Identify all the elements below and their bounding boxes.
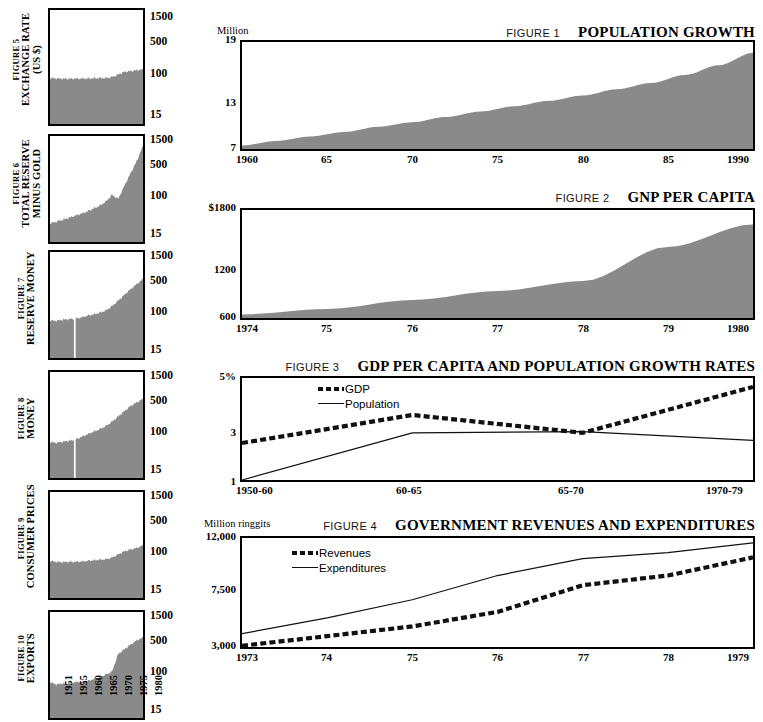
- figure-4-ytick-12000: 12,000: [190, 530, 236, 542]
- figure-4-xtick-76: 76: [492, 651, 503, 663]
- figure-3-title: GDP PER CAPITA AND POPULATION GROWTH RAT…: [357, 358, 755, 374]
- figure-4-number: FIGURE 4: [323, 520, 377, 532]
- figure-2-svg: [242, 210, 753, 318]
- small-chart-svg-10: [50, 612, 143, 718]
- figure-4-legend-item-revenues: Revenues: [292, 545, 386, 560]
- small-chart-plot-10: [48, 610, 145, 720]
- small-ytick-15: 15: [150, 109, 162, 120]
- figure-4-xtick-77: 77: [578, 651, 589, 663]
- small-ytick-500: 500: [150, 275, 167, 286]
- figure-2-ytick-1200: 1200: [195, 263, 236, 275]
- figure-4-xtick-74: 74: [321, 651, 332, 663]
- small-ytick-100: 100: [150, 190, 167, 201]
- small-ytick-500: 500: [150, 635, 167, 646]
- small-ytick-1500: 1500: [150, 370, 173, 381]
- small-chart-yticks-6: 1500 500 100 15: [150, 134, 192, 244]
- small-ytick-100: 100: [150, 426, 167, 437]
- small-chart-plot-5: [48, 8, 145, 126]
- small-ytick-1500: 1500: [150, 11, 173, 22]
- solid-line-icon: [318, 398, 344, 409]
- year-tick-1980: 1980: [153, 675, 164, 696]
- figure-1-xtick-75: 75: [492, 153, 503, 165]
- small-chart-plot-8: [48, 370, 145, 480]
- small-chart-name-7: RESERVE MONEY: [26, 248, 37, 348]
- figure-4-ytick-7500: 7,500: [190, 583, 236, 595]
- figure-1-xtick-85: 85: [663, 153, 674, 165]
- small-ytick-100: 100: [150, 546, 167, 557]
- small-chart-plot-6: [48, 134, 145, 244]
- small-chart-yticks-10: 1500 500 100 15: [150, 610, 192, 720]
- figure-3-number: FIGURE 3: [285, 361, 339, 373]
- small-ytick-500: 500: [150, 159, 167, 170]
- figure-1-plot: [240, 40, 755, 151]
- figure-2-block: FIGURE 2 GNP PER CAPITA $1800 1200 600 1…: [200, 180, 763, 350]
- figure-2-number: FIGURE 2: [556, 192, 610, 204]
- small-ytick-15: 15: [150, 464, 162, 475]
- small-chart-label-figure-8: FIGURE 8 MONEY: [16, 368, 37, 468]
- figure-4-legend-item-expenditures: Expenditures: [292, 560, 386, 575]
- figure-1-ytick-7: 7: [200, 141, 236, 153]
- dashed-line-icon: [292, 547, 318, 558]
- small-ytick-15: 15: [150, 344, 162, 355]
- figure-3-header: FIGURE 3 GDP PER CAPITA AND POPULATION G…: [285, 357, 755, 375]
- figure-3-legend: GDP Population: [318, 381, 399, 411]
- figure-1-svg: [242, 42, 753, 149]
- figure-3-legend-item-gdp: GDP: [318, 381, 399, 396]
- small-chart-name-10: EXPORTS: [26, 608, 37, 708]
- figure-3-xtick-1950-60: 1950-60: [236, 484, 273, 496]
- figure-4-xtick-78: 78: [663, 651, 674, 663]
- figure-4-header: FIGURE 4 GOVERNMENT REVENUES AND EXPENDI…: [323, 516, 755, 534]
- small-chart-svg-9: [50, 492, 143, 598]
- figure-3-ytick-1: 1: [200, 475, 236, 487]
- small-ytick-1500: 1500: [150, 250, 173, 261]
- figure-4-xtick-1973: 1973: [236, 651, 258, 663]
- figure-1-header: FIGURE 1 POPULATION GROWTH: [506, 23, 755, 41]
- figure-3-ytick-5pct: 5%: [200, 370, 236, 382]
- year-tick-1975: 1975: [138, 675, 149, 696]
- year-tick-1955: 1955: [78, 675, 89, 696]
- small-chart-label-figure-5: FIGURE 5 EXCHANGE RATE (US $): [11, 10, 42, 110]
- figure-3-xtick-65-70: 65-70: [558, 484, 584, 496]
- small-ytick-100: 100: [150, 306, 167, 317]
- figure-1-number: FIGURE 1: [506, 27, 560, 39]
- figure-1-xtick-1960: 1960: [236, 153, 258, 165]
- figure-3-legend-label-population: Population: [345, 398, 399, 410]
- small-ytick-1500: 1500: [150, 610, 173, 621]
- small-ytick-15: 15: [150, 228, 162, 239]
- figure-4-xtick-1979: 1979: [727, 651, 749, 663]
- figure-2-xtick-75: 75: [321, 322, 332, 334]
- small-chart-name-5: EXCHANGE RATE: [21, 10, 32, 110]
- figure-4-legend-label-expenditures: Expenditures: [319, 562, 386, 574]
- figure-4-unit: Million ringgits: [204, 518, 270, 529]
- small-chart-name-9: CONSUMER PRICES: [26, 488, 37, 588]
- small-ytick-500: 500: [150, 515, 167, 526]
- figure-2-xtick-76: 76: [407, 322, 418, 334]
- figure-4-legend: Revenues Expenditures: [292, 545, 386, 575]
- small-chart-yticks-9: 1500 500 100 15: [150, 490, 192, 600]
- year-tick-1960: 1960: [93, 675, 104, 696]
- figure-2-ytick-600: 600: [195, 310, 236, 322]
- figure-1-xtick-65: 65: [321, 153, 332, 165]
- figure-2-xtick-77: 77: [492, 322, 503, 334]
- figure-3-xtick-1970-79: 1970-79: [706, 484, 743, 496]
- small-chart-svg-6: [50, 136, 143, 242]
- small-ytick-15: 15: [150, 584, 162, 595]
- figure-3-legend-label-gdp: GDP: [345, 383, 370, 395]
- year-tick-1951: 1951: [63, 675, 74, 696]
- figure-2-plot: [240, 208, 755, 320]
- figure-3-block: FIGURE 3 GDP PER CAPITA AND POPULATION G…: [200, 350, 763, 505]
- small-ytick-1500: 1500: [150, 134, 173, 145]
- small-chart-plot-9: [48, 490, 145, 600]
- small-chart-name-6: TOTAL RESERVE: [21, 134, 32, 234]
- figure-3-xtick-60-65: 60-65: [396, 484, 422, 496]
- figure-1-ytick-19: 19: [200, 33, 236, 45]
- figure-3-legend-item-population: Population: [318, 396, 399, 411]
- dashed-line-icon: [318, 383, 344, 394]
- year-tick-1970: 1970: [123, 675, 134, 696]
- small-chart-name2-5: (US $): [31, 10, 42, 110]
- small-chart-svg-7: [50, 252, 143, 358]
- figure-2-xtick-79: 79: [663, 322, 674, 334]
- figure-1-xtick-80: 80: [578, 153, 589, 165]
- figure-2-xtick-1974: 1974: [236, 322, 258, 334]
- figure-1-title: POPULATION GROWTH: [578, 24, 755, 40]
